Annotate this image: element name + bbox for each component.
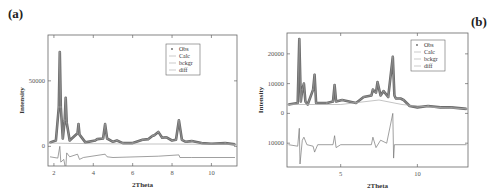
y-tick-label: 0 [281, 109, 284, 116]
legend: ObsCalcbckgrdiff [166, 44, 200, 75]
x-axis-title: 2Theta [367, 182, 389, 190]
x-axis-title: 2Theta [132, 181, 154, 189]
legend-entry: diff [179, 67, 188, 73]
legend-marker-icon [416, 44, 418, 46]
y-tick-label: 20000 [268, 50, 284, 57]
x-tick-label: 5 [339, 170, 342, 177]
legend: ObsCalcbckgrdiff [411, 40, 445, 71]
chart-panel-a: 2468100500002ThetaIntensityObsCalcbckgrd… [18, 35, 237, 189]
y-axis-title: Intensity [257, 86, 265, 113]
legend-entry: Obs [179, 46, 189, 52]
x-tick-label: 4 [92, 169, 96, 176]
plot-frame [48, 35, 237, 166]
series-bckgr [287, 100, 468, 109]
x-tick-label: 8 [170, 169, 173, 176]
x-tick-label: 10 [208, 169, 215, 176]
legend-entry: Obs [424, 42, 434, 48]
y-tick-label: 0 [42, 142, 45, 149]
y-tick-label: 10000 [268, 80, 284, 87]
legend-entry: bckgr [424, 56, 438, 62]
legend-entry: Calc [179, 53, 190, 59]
series-calc [50, 52, 235, 144]
x-tick-label: 6 [131, 169, 135, 176]
legend-marker-icon [171, 48, 173, 50]
y-tick-label: 50000 [29, 77, 45, 84]
x-tick-label: 2 [52, 169, 55, 176]
legend-entry: diff [424, 63, 433, 69]
y-axis-title: Intensity [18, 87, 26, 114]
legend-entry: Calc [424, 49, 435, 55]
chart-panel-b: 51010000010000200002ThetaIntensityObsCal… [257, 33, 468, 190]
series-diff [289, 113, 467, 164]
y-tick-label: 10000 [268, 139, 284, 146]
legend-entry: bckgr [179, 60, 193, 66]
x-tick-label: 10 [414, 170, 421, 177]
figure-canvas: 2468100500002ThetaIntensityObsCalcbckgrd… [0, 0, 497, 195]
